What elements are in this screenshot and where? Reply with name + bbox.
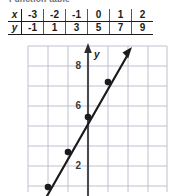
- table-cell-x-2: -1: [66, 9, 88, 22]
- table-cell-y-0: -1: [22, 22, 44, 35]
- line-arrowhead: [123, 47, 133, 58]
- y-tick-label-2: 2: [75, 160, 81, 171]
- table-cell-x-0: -3: [22, 9, 44, 22]
- table-cell-y-1: 1: [44, 22, 66, 35]
- table-cell-y-4: 7: [110, 22, 132, 35]
- y-tick-label-6: 6: [75, 100, 81, 111]
- table-header-x: x: [8, 9, 22, 22]
- table-row: x -3 -2 -1 0 1 2: [8, 9, 153, 22]
- data-point: [105, 79, 112, 86]
- table-cell-x-4: 1: [110, 9, 132, 22]
- table-cell-y-5: 9: [132, 22, 154, 35]
- table-cell-x-3: 0: [88, 9, 110, 22]
- graph-svg: 8 6 2 y: [0, 40, 178, 196]
- math-figure: Function table x -3 -2 -1 0 1 2 y -1 1 3: [0, 0, 178, 196]
- data-point: [45, 184, 52, 191]
- table-row: y -1 1 3 5 7 9: [8, 22, 153, 35]
- table-header-y: y: [8, 22, 22, 35]
- function-line: [47, 47, 132, 196]
- function-table: x -3 -2 -1 0 1 2 y -1 1 3 5 7 9: [8, 9, 153, 35]
- plotted-points: [45, 79, 112, 191]
- table-cell-y-2: 3: [66, 22, 88, 35]
- data-point: [65, 149, 72, 156]
- table-cell-y-3: 5: [88, 22, 110, 35]
- y-axis-arrowhead: [84, 43, 92, 53]
- function-table-grid: x -3 -2 -1 0 1 2 y -1 1 3 5 7 9: [8, 9, 153, 35]
- grid-lines: [28, 46, 167, 192]
- table-cell-x-5: 2: [132, 9, 154, 22]
- table-cell-x-1: -2: [44, 9, 66, 22]
- data-point: [85, 114, 92, 121]
- coordinate-graph: 8 6 2 y: [0, 40, 178, 196]
- y-axis-name-label: y: [93, 49, 100, 60]
- figure-caption-sliver: Function table: [9, 0, 129, 2]
- y-tick-label-8: 8: [75, 60, 81, 71]
